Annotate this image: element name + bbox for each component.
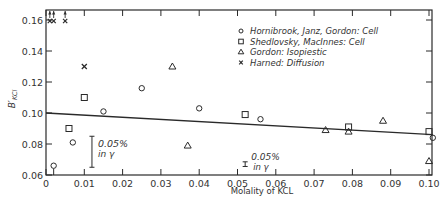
triangle-marker: [380, 117, 387, 123]
fit-line: [46, 113, 433, 135]
x-tick-label: 0.03: [150, 178, 171, 189]
y-tick-label: 0.12: [22, 77, 43, 88]
x-tick-label: 0.09: [380, 178, 401, 189]
triangle-marker: [238, 49, 244, 54]
x-tick-label: 0.02: [112, 178, 133, 189]
error-annotations: 0.05%in γ0.05%in γ: [89, 136, 279, 172]
legend-entry-label: Shedlovsky, MacInnes: Cell: [250, 37, 365, 47]
square-marker: [239, 39, 244, 44]
x-tick-label: 0: [43, 178, 49, 189]
square-marker: [81, 95, 87, 101]
up-arrow-head: [52, 11, 55, 15]
off-scale-markers: [48, 11, 68, 23]
square-marker: [242, 112, 248, 118]
circle-marker: [258, 117, 263, 122]
y-tick-label: 0.10: [22, 108, 43, 119]
x-tick-label: 0.10: [418, 178, 439, 189]
triangle-marker: [184, 142, 191, 148]
x-axis-title: Molality of KCL: [231, 186, 294, 196]
triangle-marker: [345, 128, 352, 134]
triangle-marker: [322, 127, 329, 133]
x-tick-label: 0.04: [189, 178, 210, 189]
chart: 00.010.020.030.040.050.060.070.080.090.1…: [0, 0, 442, 204]
y-tick-label: 0.08: [22, 139, 43, 150]
circle-marker: [430, 135, 435, 140]
y-tick-label: 0.16: [22, 15, 43, 26]
y-axis: 0.060.080.100.120.140.16: [22, 15, 432, 181]
circle-marker: [197, 106, 202, 111]
x-tick-label: 0.01: [74, 178, 95, 189]
circle-marker: [101, 109, 106, 114]
square-marker: [66, 126, 72, 132]
x-marker: [63, 19, 67, 23]
circle-marker: [51, 163, 56, 168]
x-marker: [52, 19, 56, 23]
up-arrow-head: [64, 11, 67, 15]
annotation-text: 0.05%: [98, 138, 128, 149]
annotation-text: 0.05%: [251, 152, 280, 162]
y-tick-label: 0.06: [22, 170, 43, 181]
x-marker: [239, 61, 243, 65]
up-arrow-head: [48, 11, 51, 15]
x-axis: 00.010.020.030.040.050.060.070.080.090.1…: [43, 10, 440, 189]
legend-entry-label: Hornibrook, Janz, Gordon: Cell: [250, 26, 379, 36]
error-bar-annotation: 0.05%in γ: [89, 136, 128, 167]
square-marker: [426, 129, 432, 135]
legend: Hornibrook, Janz, Gordon: CellShedlovsky…: [238, 26, 379, 68]
annotation-text: in γ: [253, 162, 269, 172]
y-axis-title-text: B′KCl: [7, 89, 19, 108]
y-axis-title: B′KCl: [7, 89, 19, 108]
annotation-text: in γ: [98, 149, 115, 159]
y-tick-label: 0.14: [22, 46, 43, 57]
error-bar-annotation: 0.05%in γ: [243, 152, 280, 172]
regression-line: [46, 113, 433, 135]
circle-marker: [239, 29, 243, 33]
circle-marker: [70, 140, 75, 145]
triangle-marker: [169, 63, 176, 69]
circle-marker: [139, 86, 144, 91]
x-marker: [82, 64, 87, 69]
x-tick-label: 0.08: [342, 178, 363, 189]
legend-entry-label: Harned: Diffusion: [250, 58, 324, 68]
legend-entry-label: Gordon: Isopiestic: [250, 47, 327, 57]
x-tick-label: 0.07: [304, 178, 325, 189]
